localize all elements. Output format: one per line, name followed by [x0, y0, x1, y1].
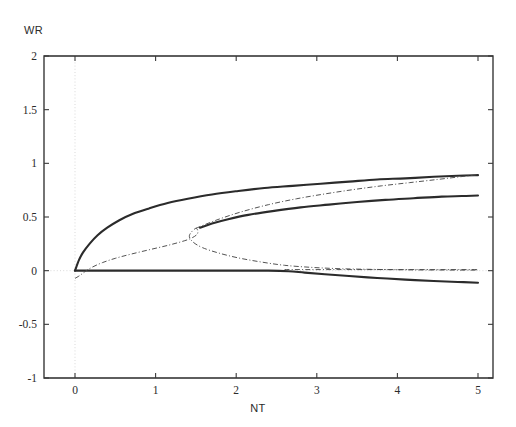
plot-frame — [44, 56, 493, 378]
curve-upper-stable-branch — [75, 175, 478, 271]
y-tick-label-4: 0 — [31, 265, 37, 277]
x-tick-label-1: 1 — [153, 384, 159, 396]
gridlines — [44, 56, 493, 378]
x-tick-label-2: 2 — [233, 384, 239, 396]
plot-canvas: 012345 21.510.50-0.5-1 WR NT — [0, 0, 516, 427]
x-tick-label-3: 3 — [314, 384, 320, 396]
bifurcation-figure: 012345 21.510.50-0.5-1 WR NT — [0, 0, 516, 427]
x-tick-label-4: 4 — [395, 384, 401, 396]
x-tick-labels: 012345 — [72, 384, 481, 396]
axis-ticks — [44, 56, 493, 378]
y-tick-labels: 21.510.50-0.5-1 — [19, 50, 37, 384]
y-tick-label-5: -0.5 — [19, 318, 37, 330]
y-axis-title: WR — [24, 24, 43, 36]
y-tick-label-6: -1 — [27, 372, 37, 384]
y-tick-label-3: 0.5 — [23, 211, 38, 223]
x-axis-title: NT — [250, 402, 265, 414]
y-tick-label-1: 1.5 — [23, 104, 38, 116]
curve-middle-branch — [200, 196, 478, 228]
x-tick-label-0: 0 — [72, 384, 78, 396]
data-curves — [75, 175, 478, 283]
y-tick-label-0: 2 — [31, 50, 37, 62]
curve-lower-branch — [75, 271, 478, 283]
x-tick-label-5: 5 — [475, 384, 481, 396]
y-tick-label-2: 1 — [31, 157, 37, 169]
